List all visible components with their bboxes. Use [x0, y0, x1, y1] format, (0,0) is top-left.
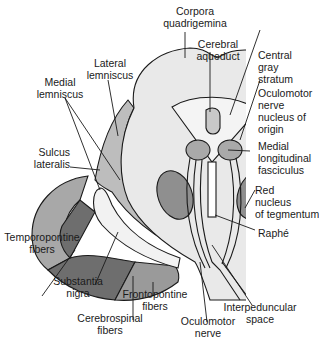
label-lateral-lemniscus: Lateral lemniscus	[82, 57, 138, 81]
label-interpeduncular-space: Interpeduncular space	[220, 301, 300, 325]
cerebral-aqueduct-shape	[206, 108, 220, 134]
oculomotor-nucleus-left	[186, 140, 210, 160]
label-red-nucleus: Red nucleus of tegmentum	[255, 184, 319, 220]
label-cerebrospinal-fibers: Cerebrospinal fibers	[70, 312, 150, 336]
label-temporopontine-fibers: Temporopontine fibers	[2, 231, 82, 255]
label-frontopontine-fibers: Frontopontine fibers	[120, 288, 190, 312]
label-raphe: Raphé	[258, 227, 289, 239]
label-cerebral-aqueduct: Cerebral aqueduct	[188, 38, 248, 62]
label-oculomotor-nerve-nucleus: Oculomotor nerve nucleus of origin	[258, 87, 312, 135]
label-medial-longitudinal-fasciculus: Medial longitudinal fasciculus	[258, 140, 311, 176]
label-substantia-nigra: Substantia nigra	[48, 275, 108, 299]
label-sulcus-lateralis: Sulcus lateralis	[20, 146, 70, 170]
label-central-gray-stratum: Central gray stratum	[258, 49, 293, 85]
raphe-shape	[208, 162, 216, 217]
label-medial-lemniscus: Medial lemniscus	[32, 76, 88, 100]
label-corpora-quadrigemina: Corpora quadrigemina	[155, 5, 235, 29]
